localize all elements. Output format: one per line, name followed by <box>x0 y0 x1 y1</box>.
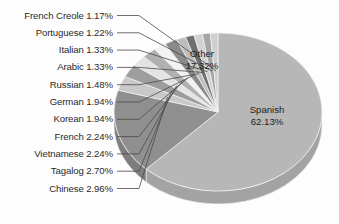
leader-label-chinese: Chinese 2.96% <box>0 184 113 194</box>
slice-callout-other-name: Other <box>173 48 231 60</box>
leader-label-tagalog: Tagalog 2.70% <box>0 166 113 176</box>
pie-chart-figure: Other 17.32% Spanish 62.13% French Creol… <box>0 0 339 224</box>
leader-label-russian: Russian 1.48% <box>0 80 113 90</box>
slice-callout-spanish-value: 62.13% <box>236 116 298 128</box>
slice-callout-other-value: 17.32% <box>173 60 231 72</box>
leader-label-french: French 2.24% <box>0 132 113 142</box>
leader-label-vietnamese: Vietnamese 2.24% <box>0 149 113 159</box>
leader-label-french: French Creole 1.17% <box>0 11 113 21</box>
slice-callout-spanish: Spanish 62.13% <box>236 104 298 129</box>
slice-callout-spanish-name: Spanish <box>236 104 298 116</box>
leader-label-italian: Italian 1.33% <box>0 45 113 55</box>
leader-label-german: German 1.94% <box>0 97 113 107</box>
leader-label-arabic: Arabic 1.33% <box>0 62 113 72</box>
leader-label-korean: Korean 1.94% <box>0 114 113 124</box>
leader-label-portuguese: Portuguese 1.22% <box>0 28 113 38</box>
slice-callout-other: Other 17.32% <box>173 48 231 73</box>
